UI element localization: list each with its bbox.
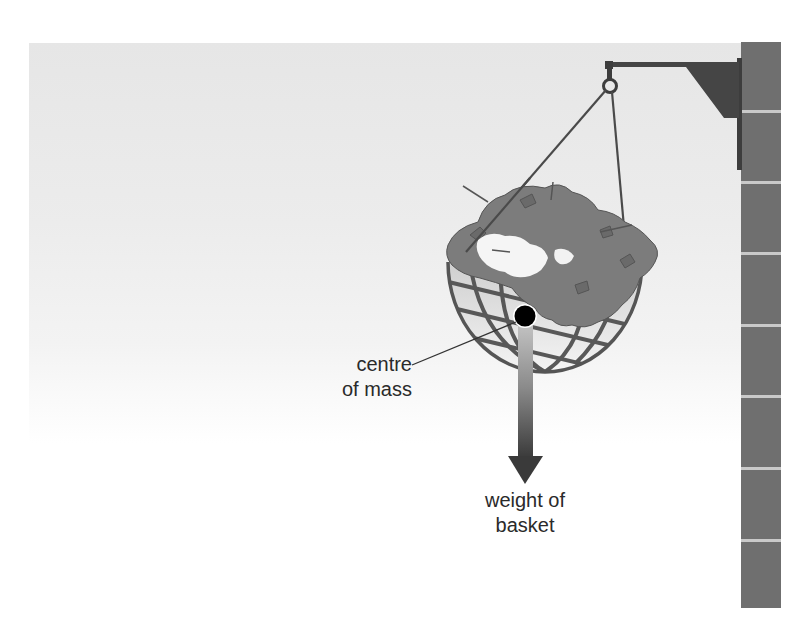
centre-of-mass-label-line1: centre: [322, 352, 412, 377]
weight-label: weight of basket: [455, 488, 595, 538]
weight-label-line1: weight of: [455, 488, 595, 513]
centre-of-mass-label-line2: of mass: [322, 377, 412, 402]
centre-of-mass-dot: [513, 304, 537, 328]
weight-label-line2: basket: [455, 513, 595, 538]
diagram-canvas: [0, 0, 804, 633]
centre-of-mass-label: centre of mass: [322, 352, 412, 402]
clipped-caption: [20, 624, 250, 633]
brick-wall: [741, 42, 781, 608]
wall-bracket: [605, 58, 742, 170]
